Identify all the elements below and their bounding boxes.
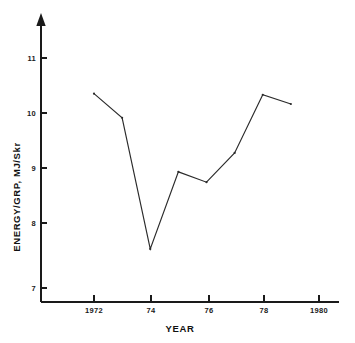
x-axis-title: YEAR [166, 323, 195, 334]
chart-figure: 11 10 9 8 7 1972 74 76 78 1980 ENERGY/GR… [0, 0, 355, 343]
x-tick-group: 1972 74 76 78 1980 [85, 295, 328, 315]
y-tick-label-11: 11 [27, 54, 36, 63]
y-tick-label-10: 10 [27, 109, 36, 118]
x-tick-label-76: 76 [205, 306, 214, 315]
series-point-group [93, 93, 292, 250]
y-tick-label-7: 7 [32, 284, 36, 293]
series-point [149, 248, 151, 250]
data-series-group [93, 93, 292, 250]
x-tick-label-1980: 1980 [310, 306, 328, 315]
y-tick-label-9: 9 [32, 164, 36, 173]
series-point [93, 93, 95, 95]
y-tick-group: 11 10 9 8 7 [27, 54, 47, 293]
x-tick-label-78: 78 [260, 306, 269, 315]
x-tick-label-74: 74 [147, 306, 156, 315]
series-point [121, 117, 123, 119]
x-tick-label-1972: 1972 [85, 306, 103, 315]
series-point [205, 181, 207, 183]
y-axis [36, 13, 45, 302]
y-axis-arrow-icon [36, 13, 45, 26]
y-axis-title: ENERGY/GRP, MJ/Skr [11, 142, 22, 251]
line-chart-plot: 11 10 9 8 7 1972 74 76 78 1980 ENERGY/GR… [0, 0, 355, 343]
y-tick-label-8: 8 [32, 219, 36, 228]
series-line-energy-grp [94, 94, 291, 249]
series-point [290, 103, 292, 105]
series-point [177, 171, 179, 173]
series-point [262, 94, 264, 96]
series-point [234, 152, 236, 154]
